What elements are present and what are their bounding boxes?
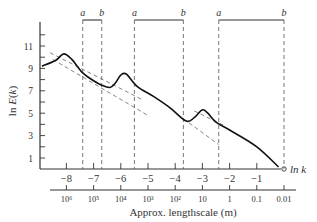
- plot-area: ln k1357911ln E(k)−8−7−6−5−4−3−2−110⁶10⁵…: [6, 7, 307, 219]
- y-axis-label: ln E(k): [6, 86, 19, 117]
- x-tick-label: −6: [115, 173, 126, 184]
- spectrum-chart: ln k1357911ln E(k)−8−7−6−5−4−3−2−110⁶10⁵…: [0, 0, 317, 222]
- y-tick-label: 9: [28, 64, 33, 74]
- y-tick-label: 11: [24, 42, 33, 52]
- reference-dashed-line: [183, 119, 218, 145]
- lengthscale-tick-label: 10³: [142, 194, 154, 204]
- spectrum-curve: [42, 54, 279, 167]
- x-tick-label: −1: [251, 173, 262, 184]
- lengthscale-axis-label: Approx. lengthscale (m): [129, 206, 237, 219]
- x-tick-label: −3: [197, 173, 208, 184]
- band-label-b: b: [181, 7, 186, 18]
- band-label-a: a: [132, 7, 137, 18]
- x-tick-label: −8: [61, 173, 72, 184]
- band-label-a: a: [80, 7, 85, 18]
- band-label-a: a: [216, 7, 221, 18]
- reference-dashed-line: [53, 59, 148, 115]
- lengthscale-tick-label: 0.01: [277, 194, 292, 204]
- y-tick-label: 5: [28, 109, 33, 119]
- band-label-b: b: [99, 7, 104, 18]
- lengthscale-tick-label: 10⁵: [88, 194, 100, 204]
- lengthscale-tick-label: 10⁴: [115, 194, 127, 204]
- lengthscale-tick-label: 10²: [170, 194, 182, 204]
- y-tick-label: 3: [28, 131, 33, 141]
- x-axis-label: ln k: [290, 163, 307, 175]
- lengthscale-tick-label: 0.1: [251, 194, 262, 204]
- y-tick-label: 1: [28, 154, 33, 164]
- band-label-b: b: [282, 7, 287, 18]
- lengthscale-tick-label: 1: [227, 194, 231, 204]
- y-tick-label: 7: [28, 86, 33, 96]
- x-tick-label: −4: [170, 173, 182, 184]
- x-tick-label: −7: [88, 173, 99, 184]
- lengthscale-tick-label: 10: [198, 194, 207, 204]
- lengthscale-tick-label: 10⁶: [61, 194, 73, 204]
- x-tick-label: −2: [224, 173, 235, 184]
- x-tick-label: −5: [142, 173, 153, 184]
